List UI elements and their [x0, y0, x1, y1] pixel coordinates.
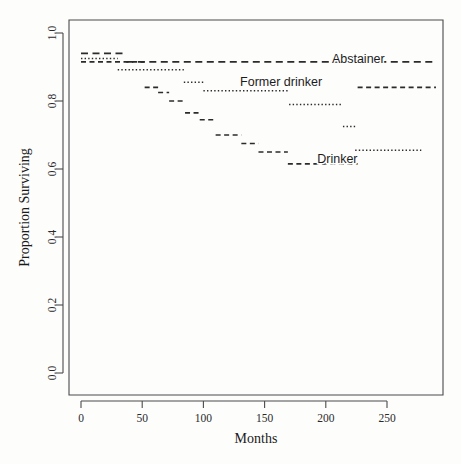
x-tick-label-50: 50 — [136, 412, 148, 424]
x-tick-label-200: 200 — [317, 412, 335, 424]
series-curve-former-drinker — [81, 59, 421, 151]
x-axis-title: Months — [235, 431, 278, 446]
y-tick-label-0.8: 0.8 — [46, 94, 58, 109]
y-tick-label-0.4: 0.4 — [46, 230, 58, 245]
y-tick-label-1.0: 1.0 — [46, 26, 58, 41]
y-tick-label-0.0: 0.0 — [46, 366, 58, 381]
plot-canvas: 050100150200250Months0.00.20.40.60.81.0P… — [0, 0, 461, 464]
x-tick-label-250: 250 — [378, 412, 396, 424]
survival-curve-figure: 050100150200250Months0.00.20.40.60.81.0P… — [0, 0, 461, 464]
series-label-abstainer: Abstainer — [332, 52, 385, 66]
y-tick-label-0.6: 0.6 — [46, 162, 58, 177]
x-tick-label-150: 150 — [256, 412, 274, 424]
x-tick-label-100: 100 — [195, 412, 213, 424]
x-tick-label-0: 0 — [78, 412, 84, 424]
y-axis-title: Proportion Surviving — [17, 148, 32, 267]
y-tick-label-0.2: 0.2 — [46, 298, 58, 313]
series-label-former-drinker: Former drinker — [240, 75, 322, 89]
series-label-drinker: Drinker — [317, 152, 357, 166]
